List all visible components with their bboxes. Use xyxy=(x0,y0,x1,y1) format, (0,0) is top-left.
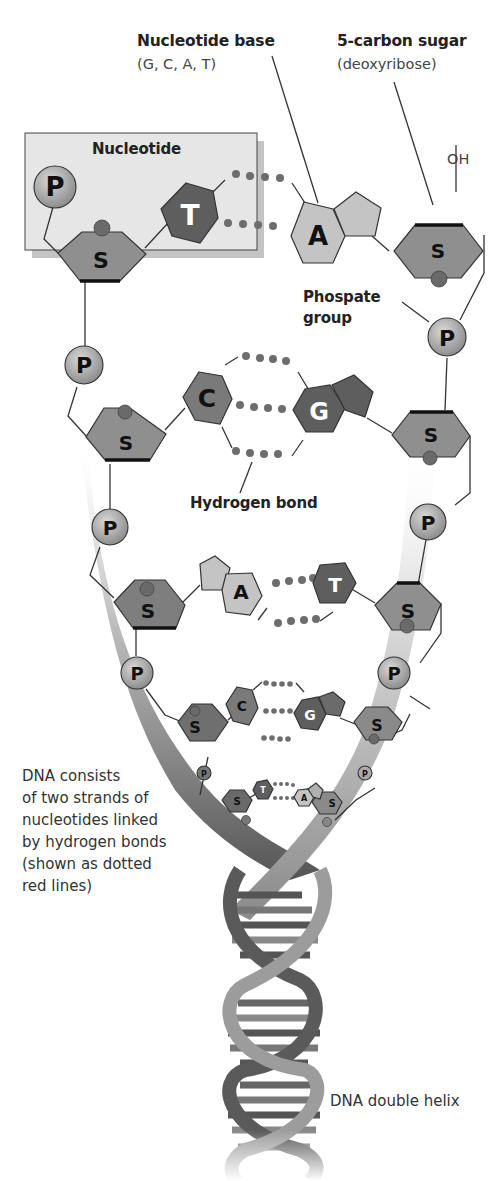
guanine-glyph: G xyxy=(309,398,329,426)
thymine-glyph: T xyxy=(328,573,342,597)
thymine-glyph: T xyxy=(180,199,199,232)
nucleotide-box-title: Nucleotide xyxy=(92,140,181,158)
phosphate-group-label-line2: group xyxy=(303,308,381,329)
phosphate-glyph: P xyxy=(362,770,368,779)
guanine-glyph: G xyxy=(304,707,316,723)
sugar-glyph: S xyxy=(93,248,109,273)
double-helix-label: DNA double helix xyxy=(330,1092,460,1110)
oh-label: OH xyxy=(447,151,469,167)
phosphate-glyph: P xyxy=(45,172,64,202)
adenine-glyph: A xyxy=(233,580,249,604)
adenine-glyph: A xyxy=(301,794,308,803)
hydrogen-bond-label: Hydrogen bond xyxy=(190,494,317,512)
phosphate-group-label: Phospate group xyxy=(303,287,381,329)
sugar-glyph: S xyxy=(189,718,201,737)
dna-description: DNA consists of two strands of nucleotid… xyxy=(22,765,202,897)
nucleotide-base-sublabel: (G, C, A, T) xyxy=(137,56,216,72)
thymine-glyph: T xyxy=(260,786,266,795)
description-line: of two strands of xyxy=(22,787,202,809)
sugar-glyph: S xyxy=(233,796,240,807)
phosphate-group-label-line1: Phospate xyxy=(303,287,381,308)
carbon-sugar-label: 5-carbon sugar xyxy=(337,32,466,50)
dna-structure-diagram: P S T A S P P C G S S P P A T S S P P C … xyxy=(0,0,504,1181)
description-line: (shown as dotted xyxy=(22,853,202,875)
carbon-sugar-sublabel: (deoxyribose) xyxy=(337,56,437,72)
sugar-glyph: S xyxy=(401,599,415,623)
double-helix xyxy=(200,870,350,1181)
description-line: by hydrogen bonds xyxy=(22,831,202,853)
description-line: nucleotides linked xyxy=(22,809,202,831)
sugar-glyph: S xyxy=(424,423,438,447)
phosphate-glyph: P xyxy=(130,663,143,684)
cytosine-glyph: C xyxy=(237,698,247,714)
cytosine-glyph: C xyxy=(198,384,216,413)
phosphate-glyph: P xyxy=(421,511,436,535)
phosphate-glyph: P xyxy=(103,516,118,540)
diagram-graphics: P S T A S P P C G S S P P A T S S P P C … xyxy=(0,0,504,1181)
description-line: red lines) xyxy=(22,875,202,897)
phosphate-glyph: P xyxy=(439,326,455,351)
sugar-glyph: S xyxy=(119,431,133,455)
phosphate-glyph: P xyxy=(387,663,400,684)
phosphate-glyph: P xyxy=(76,353,92,378)
sugar-glyph: S xyxy=(328,798,335,809)
sugar-glyph: S xyxy=(141,599,155,623)
nucleotide-base-label: Nucleotide base xyxy=(137,32,275,50)
description-line: DNA consists xyxy=(22,765,202,787)
sugar-glyph: S xyxy=(371,716,383,735)
sugar-glyph: S xyxy=(431,239,445,263)
adenine-glyph: A xyxy=(308,221,328,251)
